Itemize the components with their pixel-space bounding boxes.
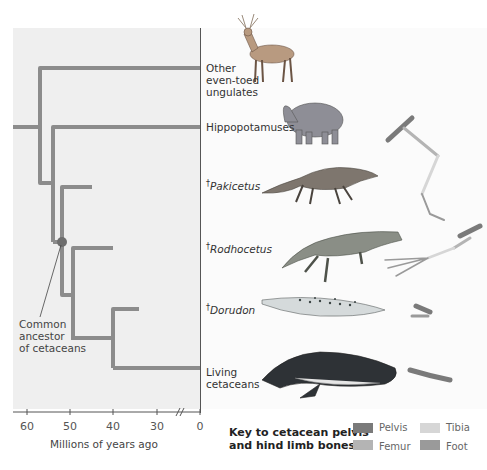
tick-0: 0 [197, 420, 204, 433]
x-axis-label: Millions of years ago [50, 438, 158, 450]
key-foot: Foot [446, 441, 468, 452]
tick-30: 30 [150, 420, 164, 433]
dorudon-pelvis-bones [412, 306, 430, 316]
common-ancestor-node [57, 237, 67, 247]
tick-60: 60 [20, 420, 34, 433]
branch-pakicetus [62, 187, 92, 242]
key-femur: Femur [379, 441, 411, 452]
taxon-label-living-cetaceans: Living cetaceans [206, 366, 260, 390]
foot-swatch [420, 440, 440, 450]
whale-pelvis-bones [410, 370, 450, 380]
rodhocetus-limb-bones [385, 226, 480, 276]
ancestor-pointer [40, 245, 61, 317]
tick-50: 50 [63, 420, 77, 433]
hippo-limb-bones [388, 118, 444, 220]
branch-hippos [53, 127, 200, 242]
pelvis-swatch [353, 423, 373, 433]
branch-cetacean-stem [53, 242, 73, 295]
dorudon-illustration [262, 297, 385, 316]
present-day-line [200, 28, 201, 413]
femur-swatch [353, 440, 373, 450]
rodhocetus-illustration [282, 232, 402, 282]
key-pelvis: Pelvis [379, 422, 408, 433]
key-tibia: Tibia [446, 422, 470, 433]
whale-illustration [262, 352, 396, 398]
taxon-label-hippos: Hippopotamuses [206, 121, 295, 133]
tibia-swatch [420, 423, 440, 433]
taxon-label-ungulates: Other even-toed ungulates [206, 62, 259, 98]
taxon-label-dorudon: †Dorudon [206, 302, 255, 316]
common-ancestor-label: Common ancestor of cetaceans [19, 318, 86, 354]
taxon-label-pakicetus: †Pakicetus [206, 178, 260, 192]
pakicetus-illustration [262, 167, 378, 204]
branch-dorudon [113, 309, 139, 368]
tick-40: 40 [106, 420, 120, 433]
key-title: Key to cetacean pelvis and hind limb bon… [229, 426, 369, 452]
taxon-label-rodhocetus: †Rodhocetus [206, 241, 272, 255]
